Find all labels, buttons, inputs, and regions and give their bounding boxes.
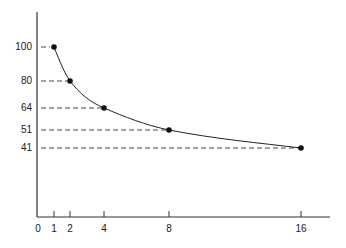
x-tick-label: 16 bbox=[295, 223, 307, 234]
y-tick-label: 80 bbox=[21, 75, 33, 86]
y-tick-labels: 100 80 64 51 41 bbox=[15, 41, 32, 153]
data-point bbox=[67, 78, 73, 84]
y-tick-label: 41 bbox=[21, 142, 33, 153]
reference-lines bbox=[41, 47, 298, 148]
data-point bbox=[101, 105, 107, 111]
x-tick-label: 1 bbox=[51, 223, 57, 234]
data-points bbox=[51, 44, 304, 151]
x-tick-label: 4 bbox=[101, 223, 107, 234]
y-tick-label: 64 bbox=[21, 102, 33, 113]
x-tick-labels: 0 1 2 4 8 16 bbox=[35, 223, 307, 234]
y-tick-label: 100 bbox=[15, 41, 32, 52]
data-point bbox=[298, 145, 304, 151]
chart: 0 1 2 4 8 16 100 80 64 51 41 bbox=[0, 0, 346, 248]
data-curve bbox=[54, 47, 301, 148]
x-ticks bbox=[54, 211, 301, 217]
x-tick-label: 8 bbox=[166, 223, 172, 234]
data-point bbox=[166, 127, 172, 133]
data-point bbox=[51, 44, 57, 50]
x-tick-label: 2 bbox=[67, 223, 73, 234]
x-tick-label: 0 bbox=[35, 223, 41, 234]
y-tick-label: 51 bbox=[21, 124, 33, 135]
